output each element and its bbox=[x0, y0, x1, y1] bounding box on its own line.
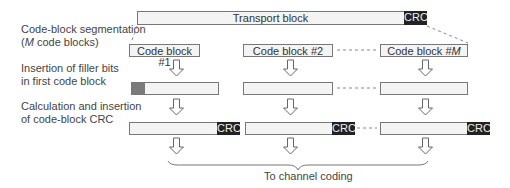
brace bbox=[168, 161, 428, 170]
down-arrows bbox=[170, 60, 433, 154]
connectors bbox=[0, 0, 510, 188]
output-label: To channel coding bbox=[264, 170, 353, 183]
split-line-left bbox=[131, 26, 137, 43]
split-line-right bbox=[427, 26, 468, 43]
